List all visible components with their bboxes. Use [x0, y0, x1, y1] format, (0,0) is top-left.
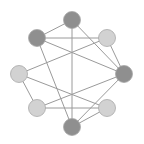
node-lower-right	[99, 100, 116, 117]
edge-right-bottom	[72, 74, 124, 127]
node-upper-right	[99, 30, 116, 47]
node-bottom	[64, 119, 81, 136]
node-left	[11, 66, 28, 83]
node-top	[64, 12, 81, 29]
node-upper-left	[29, 30, 46, 47]
network-graph-diagram	[0, 0, 144, 144]
edge-top-right	[72, 20, 124, 74]
node-right	[116, 66, 133, 83]
node-lower-left	[29, 100, 46, 117]
